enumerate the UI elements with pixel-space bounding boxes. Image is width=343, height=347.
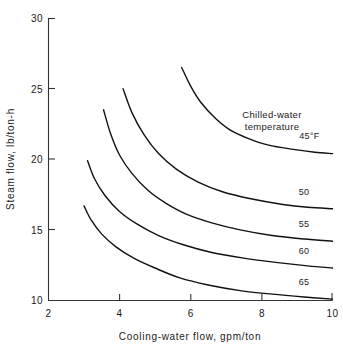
x-tick-labels: 2 4 6 8 10	[46, 308, 339, 319]
annotation-line-2: temperature	[245, 121, 300, 132]
y-tick-label-25: 25	[31, 84, 43, 95]
data-curves-group	[84, 67, 333, 299]
x-tick-label-2: 2	[46, 308, 52, 319]
x-tick-label-8: 8	[259, 308, 265, 319]
chart-figure: 30 25 20 15 10 2 4 6 8 10 Cooling-water …	[0, 0, 343, 347]
series-label-50: 50	[299, 187, 310, 197]
x-tick-label-6: 6	[188, 308, 194, 319]
y-axis-title: Steam flow, lb/ton-h	[5, 108, 16, 210]
chart-canvas: 30 25 20 15 10 2 4 6 8 10 Cooling-water …	[0, 0, 343, 347]
axes-group	[48, 18, 333, 301]
x-tick-label-10: 10	[327, 308, 339, 319]
series-label-45F: 45°F	[299, 131, 320, 141]
y-tick-label-30: 30	[31, 13, 43, 24]
series-label-60: 60	[299, 246, 310, 256]
y-tick-label-20: 20	[31, 154, 43, 165]
x-tick-marks	[120, 294, 262, 301]
series-label-55: 55	[299, 219, 310, 229]
series-label-65: 65	[299, 277, 310, 287]
y-tick-label-15: 15	[31, 225, 43, 236]
curve-65	[84, 206, 333, 299]
y-tick-label-10: 10	[31, 295, 43, 306]
y-tick-labels: 30 25 20 15 10	[31, 13, 43, 306]
y-tick-marks	[49, 89, 56, 230]
chilled-water-annotation: Chilled-water temperature	[242, 109, 301, 132]
series-labels-group: 45°F50556065	[299, 131, 320, 287]
x-tick-label-4: 4	[117, 308, 123, 319]
annotation-line-1: Chilled-water	[242, 109, 301, 120]
x-axis-title: Cooling-water flow, gpm/ton	[119, 331, 261, 342]
